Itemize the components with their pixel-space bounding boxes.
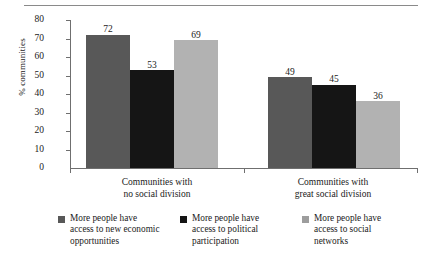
bar-g0-s1 — [130, 70, 174, 168]
y-tick-label: 20 — [18, 126, 44, 136]
axes: 80 70 60 50 40 30 20 10 0 72 53 69 49 — [70, 20, 418, 169]
y-tick-mark — [66, 20, 71, 21]
y-tick-label: 10 — [18, 145, 44, 155]
bar-g0-s0 — [86, 35, 130, 168]
x-tick-mark — [417, 168, 418, 173]
y-tick-label: 70 — [18, 34, 44, 44]
legend-label-series-2-line-1: More people have — [314, 213, 381, 223]
x-category-label-1-line-1: Communities with — [258, 177, 408, 189]
bar-label-g0-s1: 53 — [120, 60, 184, 70]
y-tick-mark — [66, 113, 71, 114]
bar-label-g1-s2: 36 — [346, 91, 410, 101]
bar-g1-s0 — [268, 77, 312, 168]
y-tick-label: 80 — [18, 15, 44, 25]
legend-label-series-0-line-1: More people have — [70, 213, 137, 223]
y-tick-mark — [66, 57, 71, 58]
legend-swatch-icon-series-0 — [58, 216, 65, 223]
legend-label-series-1: More people have access to political par… — [192, 213, 259, 247]
chart-figure: % communities 80 70 60 50 40 30 20 10 0 — [0, 0, 436, 266]
legend-item-social-networks: More people have access to social networ… — [302, 213, 424, 247]
legend-item-political-participation: More people have access to political par… — [180, 213, 302, 247]
legend-label-series-1-line-3: participation — [192, 236, 239, 246]
x-category-label-1: Communities with great social division — [258, 177, 408, 200]
y-tick-label: 40 — [18, 89, 44, 99]
legend-label-series-2-line-3: networks — [314, 236, 348, 246]
legend-label-series-2-line-2: access to social — [314, 224, 371, 234]
y-tick-mark — [66, 94, 71, 95]
y-tick-mark — [66, 39, 71, 40]
x-category-label-0-line-1: Communities with — [82, 177, 232, 189]
bar-g1-s2 — [356, 101, 400, 168]
y-tick-mark — [66, 150, 71, 151]
chart-legend: More people have access to new economic … — [58, 213, 424, 247]
legend-item-economic-opportunities: More people have access to new economic … — [58, 213, 180, 247]
legend-swatch-icon-series-1 — [180, 216, 187, 223]
y-tick-mark — [66, 76, 71, 77]
legend-label-series-2: More people have access to social networ… — [314, 213, 381, 247]
x-tick-mark — [70, 168, 71, 173]
y-tick-label: 0 — [18, 163, 44, 173]
y-tick-label: 60 — [18, 52, 44, 62]
x-category-label-0: Communities with no social division — [82, 177, 232, 200]
bar-label-g0-s0: 72 — [76, 24, 140, 34]
y-tick-label: 30 — [18, 108, 44, 118]
legend-label-series-0: More people have access to new economic … — [70, 213, 160, 247]
plot-area: % communities 80 70 60 50 40 30 20 10 0 — [0, 0, 436, 200]
bar-label-g0-s2: 69 — [164, 30, 228, 40]
legend-label-series-0-line-3: opportunities — [70, 236, 119, 246]
y-tick-mark — [66, 131, 71, 132]
x-tick-mark — [244, 168, 245, 173]
legend-label-series-1-line-2: access to political — [192, 224, 258, 234]
legend-swatch-icon-series-2 — [302, 216, 309, 223]
x-category-label-0-line-2: no social division — [82, 189, 232, 201]
legend-label-series-1-line-1: More people have — [192, 213, 259, 223]
y-tick-label: 50 — [18, 71, 44, 81]
bar-label-g1-s1: 45 — [302, 74, 366, 84]
legend-label-series-0-line-2: access to new economic — [70, 224, 160, 234]
x-category-label-1-line-2: great social division — [258, 189, 408, 201]
